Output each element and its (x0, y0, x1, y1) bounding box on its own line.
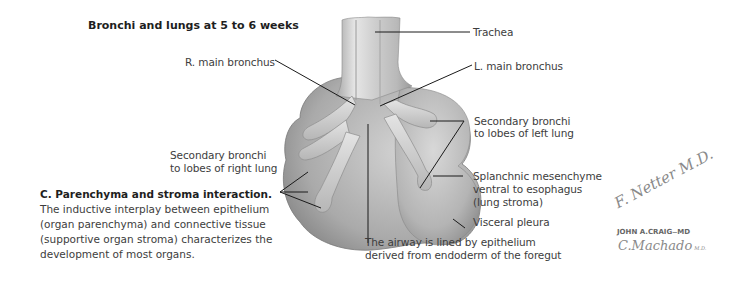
caption-body: The inductive interplay between epitheli… (40, 203, 272, 260)
trachea (336, 17, 412, 100)
label-airway-2: derived from endoderm of the foregut (365, 249, 561, 262)
label-secondary-bronchi-right-1: Secondary bronchi (170, 149, 266, 162)
label-splanchnic-1: Splanchnic mesenchyme (473, 170, 602, 183)
label-trachea: Trachea (473, 26, 513, 39)
figure-title: Bronchi and lungs at 5 to 6 weeks (88, 19, 299, 32)
label-airway-1: The airway is lined by epithelium (365, 236, 536, 249)
label-splanchnic-2: ventral to esophagus (473, 183, 582, 196)
caption-heading: C. Parenchyma and stroma interaction. (40, 188, 272, 200)
label-secondary-bronchi-right-2: to lobes of right lung (170, 162, 277, 175)
label-r-main-bronchus: R. main bronchus (185, 56, 275, 69)
signature-craig: JOHN A.CRAIG—MD (617, 228, 690, 236)
label-visceral-pleura: Visceral pleura (473, 216, 550, 229)
label-secondary-bronchi-left-2: to lobes of left lung (474, 127, 574, 140)
caption: C. Parenchyma and stroma interaction. Th… (40, 187, 290, 262)
signature-machado: C.MachadoM.D. (618, 238, 706, 253)
label-l-main-bronchus: L. main bronchus (474, 60, 563, 73)
figure-canvas: Bronchi and lungs at 5 to 6 weeks Trache… (0, 0, 735, 282)
label-splanchnic-3: (lung stroma) (473, 196, 543, 209)
